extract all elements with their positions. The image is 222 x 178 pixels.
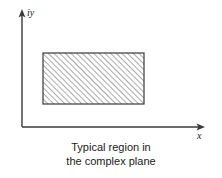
complex-plane-figure: iy x Typical region in the complex plane [0, 0, 222, 178]
imaginary-axis-label: iy [27, 8, 34, 18]
figure-caption-line-1: Typical region in [0, 140, 222, 154]
figure-caption-line-2: the complex plane [0, 154, 222, 168]
hatched-rectangle-fill [43, 53, 144, 104]
real-axis [22, 124, 205, 131]
imaginary-axis [19, 9, 26, 127]
figure-caption: Typical region in the complex plane [0, 140, 222, 168]
hatched-rectangle [43, 53, 144, 104]
